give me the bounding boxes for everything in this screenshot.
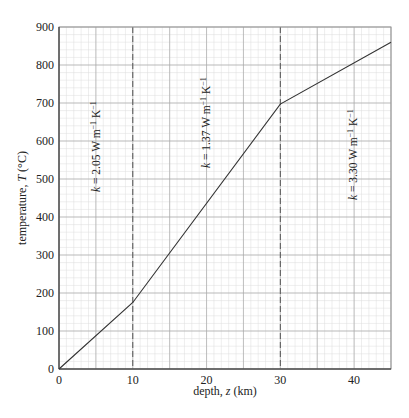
x-axis-label: depth, z (km) [193, 384, 257, 398]
geotherm-line [59, 42, 391, 369]
minor-grid [59, 27, 391, 369]
svg-text:500: 500 [36, 172, 54, 186]
y-axis-label: temperature, T (°C) [15, 151, 29, 245]
svg-text:10: 10 [127, 373, 139, 387]
major-grid [59, 27, 391, 369]
svg-text:400: 400 [36, 210, 54, 224]
svg-text:800: 800 [36, 58, 54, 72]
annotation-k-1-37: k = 1.37 W m−1 K−1 [199, 77, 213, 168]
annotation-k-3-30: k = 3.30 W m−1 K−1 [346, 109, 360, 200]
svg-text:30: 30 [274, 373, 286, 387]
svg-text:600: 600 [36, 134, 54, 148]
svg-text:700: 700 [36, 96, 54, 110]
svg-text:0: 0 [48, 362, 54, 376]
svg-text:300: 300 [36, 248, 54, 262]
svg-text:100: 100 [36, 324, 54, 338]
svg-text:0: 0 [56, 373, 62, 387]
svg-text:200: 200 [36, 286, 54, 300]
svg-text:40: 40 [348, 373, 360, 387]
svg-text:900: 900 [36, 20, 54, 34]
plot-frame [59, 27, 391, 369]
geotherm-chart: 010203040 0100200300400500600700800900 d… [0, 0, 409, 418]
y-tick-labels: 0100200300400500600700800900 [36, 20, 54, 376]
annotation-k-2-05: k = 2.05 W m−1 K−1 [89, 101, 103, 192]
